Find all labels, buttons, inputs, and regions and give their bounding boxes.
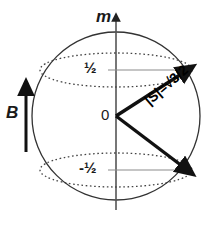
magnetic-field-label: B bbox=[6, 104, 18, 121]
diagram-canvas bbox=[0, 0, 223, 231]
spin-down-vector bbox=[116, 116, 186, 169]
level-label-spin-up: ½ bbox=[84, 60, 97, 75]
m-axis-label: m bbox=[96, 8, 111, 25]
origin-label: 0 bbox=[101, 107, 109, 122]
level-label-spin-down: -½ bbox=[79, 160, 97, 175]
spin-vector-diagram: m B 0 ½ -½ |S|=√3/2 bbox=[0, 0, 223, 231]
